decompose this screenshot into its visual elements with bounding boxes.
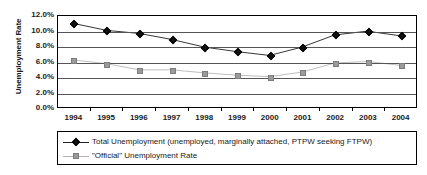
x-axis-tick <box>253 108 254 111</box>
data-point-marker <box>399 63 405 69</box>
x-tick-label: 1999 <box>221 113 253 122</box>
x-tick-label: 2001 <box>286 113 318 122</box>
y-tick-label: 6.0% <box>22 58 54 66</box>
x-axis-tick <box>155 108 156 111</box>
data-point-marker <box>300 70 306 76</box>
y-tick-label: 4.0% <box>22 73 54 81</box>
x-tick-label: 1995 <box>90 113 122 122</box>
gridline <box>58 94 416 95</box>
y-tick-label: 0.0% <box>22 104 54 112</box>
x-tick-label: 2004 <box>385 113 417 122</box>
x-axis-tick <box>122 108 123 111</box>
x-axis-tick <box>221 108 222 111</box>
x-axis-tick <box>286 108 287 111</box>
y-tick-label: 2.0% <box>22 89 54 97</box>
unemployment-rate-chart: Unemployment Rate 12.0%10.0%8.0%6.0%4.0%… <box>0 0 427 175</box>
x-tick-label: 1996 <box>123 113 155 122</box>
data-point-marker <box>235 73 241 79</box>
x-axis-tick <box>384 108 385 111</box>
legend-item-total: Total Unemployment (unemployed, marginal… <box>63 135 372 149</box>
x-axis-tick <box>188 108 189 111</box>
legend-marker-square-icon <box>63 151 89 161</box>
gridline <box>58 63 416 64</box>
y-tick-label: 12.0% <box>22 11 54 19</box>
gridline <box>58 32 416 33</box>
x-tick-label: 1997 <box>156 113 188 122</box>
y-axis-tick-labels: 12.0%10.0%8.0%6.0%4.0%2.0%0.0% <box>21 0 54 175</box>
y-tick-label: 10.0% <box>22 27 54 35</box>
x-tick-label: 1998 <box>188 113 220 122</box>
x-tick-label: 2003 <box>352 113 384 122</box>
x-tick-label: 2000 <box>254 113 286 122</box>
x-tick-label: 1994 <box>57 113 89 122</box>
x-tick-label: 2002 <box>319 113 351 122</box>
data-point-marker <box>333 61 339 67</box>
legend-label-total: Total Unemployment (unemployed, marginal… <box>89 137 372 147</box>
chart-legend: Total Unemployment (unemployed, marginal… <box>57 131 417 165</box>
data-point-marker <box>268 75 274 81</box>
legend-label-official: "Official" Unemployment Rate <box>89 151 197 161</box>
legend-item-official: "Official" Unemployment Rate <box>63 149 197 163</box>
x-axis-tick <box>319 108 320 111</box>
data-point-marker <box>202 71 208 77</box>
x-axis-tick <box>352 108 353 111</box>
data-point-marker <box>170 68 176 74</box>
data-point-marker <box>366 60 372 66</box>
data-point-marker <box>137 68 143 74</box>
y-tick-label: 8.0% <box>22 42 54 50</box>
data-point-marker <box>104 62 110 68</box>
legend-marker-diamond-icon <box>63 137 89 147</box>
plot-area <box>57 15 417 108</box>
data-point-marker <box>71 58 77 64</box>
x-axis-tick <box>90 108 91 111</box>
